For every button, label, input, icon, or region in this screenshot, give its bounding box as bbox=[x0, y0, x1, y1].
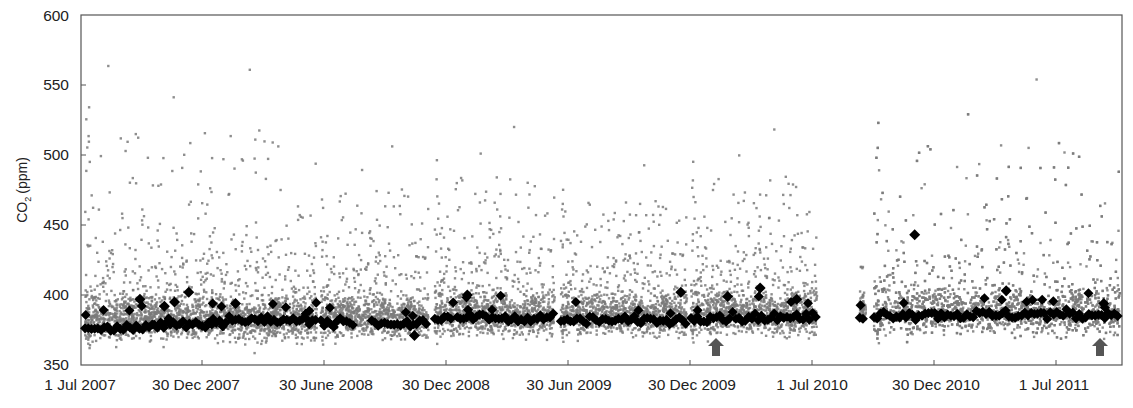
y-axis-title-unit: (ppm) bbox=[14, 157, 30, 194]
y-tick-label: 400 bbox=[43, 286, 69, 303]
x-tick-label: 1 Jul 2011 bbox=[1019, 376, 1089, 393]
arrow-up-icon bbox=[708, 338, 724, 356]
x-tick-label: 1 Jul 2010 bbox=[776, 376, 848, 393]
x-tick-label: 1 Jul 2007 bbox=[44, 376, 116, 393]
svg-text:CO2(ppm): CO2(ppm) bbox=[14, 157, 33, 223]
x-tick-label: 30 Dec 2010 bbox=[892, 376, 980, 393]
y-tick-label: 550 bbox=[43, 76, 69, 93]
y-tick-label: 350 bbox=[43, 356, 69, 373]
x-tick-label: 30 June 2008 bbox=[279, 376, 373, 393]
y-tick-label: 600 bbox=[43, 7, 69, 24]
x-tick-label: 30 Dec 2007 bbox=[152, 376, 240, 393]
y-axis: 350 400 450 500 550 600 bbox=[43, 7, 86, 373]
arrow-up-icon bbox=[1092, 338, 1108, 356]
x-tick-label: 30 Dec 2008 bbox=[402, 376, 490, 393]
x-tick-label: 30 Jun 2009 bbox=[526, 376, 611, 393]
y-axis-title-main: CO bbox=[14, 202, 30, 223]
y-axis-title-subscript: 2 bbox=[23, 197, 33, 202]
y-tick-label: 450 bbox=[43, 216, 69, 233]
y-tick-label: 500 bbox=[43, 146, 69, 163]
x-tick-label: 30 Dec 2009 bbox=[648, 376, 736, 393]
y-axis-title: CO2(ppm) bbox=[14, 157, 33, 223]
co2-scatter-chart: 350 400 450 500 550 600 CO2(ppm) 1 Jul 2… bbox=[0, 0, 1133, 408]
